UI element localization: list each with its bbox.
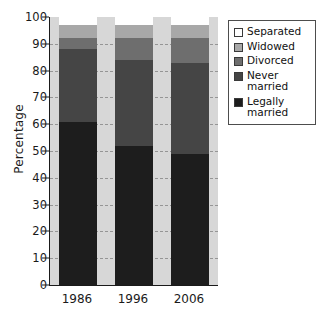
bar-segment-legally-married <box>171 154 209 285</box>
bar-segment-divorced <box>171 38 209 62</box>
bar-segment-never-married <box>115 60 153 146</box>
bar-segment-widowed <box>59 25 97 38</box>
y-axis-tick-mark <box>42 97 49 98</box>
legend-item[interactable]: Widowed <box>234 41 311 53</box>
bar-segment-separated <box>171 17 209 25</box>
bar-1996 <box>115 17 153 285</box>
legend-swatch-divorced-icon <box>234 57 243 66</box>
bar-segment-widowed <box>115 25 153 38</box>
legend-item[interactable]: Divorced <box>234 55 311 67</box>
legend-item-label: Divorced <box>247 55 294 67</box>
bar-group <box>50 17 218 285</box>
legend-swatch-never-married-icon <box>234 72 243 81</box>
x-axis-tick-label: 1986 <box>47 292 107 306</box>
y-axis-tick-mark <box>42 258 49 259</box>
bar-segment-never-married <box>171 63 209 154</box>
legend-swatch-widowed-icon <box>234 43 243 52</box>
y-axis-tick-mark <box>42 177 49 178</box>
bar-segment-separated <box>115 17 153 25</box>
x-axis-tick-label: 1996 <box>103 292 163 306</box>
y-axis-tick-mark <box>42 204 49 205</box>
legend-item[interactable]: Legally married <box>234 96 311 119</box>
legend-item[interactable]: Never married <box>234 70 311 93</box>
plot-area <box>49 17 218 286</box>
y-axis-tick-mark <box>42 17 49 18</box>
stacked-bar-chart: Percentage 0102030405060708090100 198619… <box>0 0 322 315</box>
bar-segment-widowed <box>171 25 209 38</box>
x-axis-tick-label: 2006 <box>159 292 219 306</box>
bar-segment-divorced <box>59 38 97 49</box>
y-axis-tick-mark <box>42 151 49 152</box>
legend-item-group: SeparatedWidowedDivorcedNever marriedLeg… <box>234 26 311 119</box>
legend-item-label: Legally married <box>247 96 288 119</box>
legend-item[interactable]: Separated <box>234 26 311 38</box>
legend-swatch-legally-married-icon <box>234 98 243 107</box>
bar-1986 <box>59 17 97 285</box>
legend-item-label: Never married <box>247 70 288 93</box>
bar-segment-separated <box>59 17 97 25</box>
legend-swatch-separated-icon <box>234 28 243 37</box>
legend-item-label: Widowed <box>247 41 295 53</box>
bar-segment-legally-married <box>115 146 153 285</box>
bar-segment-legally-married <box>59 122 97 285</box>
y-axis-tick-mark <box>42 124 49 125</box>
bar-segment-never-married <box>59 49 97 121</box>
legend: SeparatedWidowedDivorcedNever marriedLeg… <box>228 20 316 125</box>
bar-2006 <box>171 17 209 285</box>
y-axis-tick-mark <box>42 231 49 232</box>
bar-segment-divorced <box>115 38 153 59</box>
y-axis-tick-mark <box>42 43 49 44</box>
legend-item-label: Separated <box>247 26 301 38</box>
y-axis-tick-mark <box>42 285 49 286</box>
y-axis-tick-mark <box>42 70 49 71</box>
